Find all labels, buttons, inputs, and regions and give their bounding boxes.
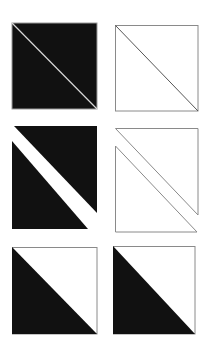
filled-square-thin-diagonal: [12, 23, 97, 109]
filled-triangles-separated: [12, 126, 97, 229]
outline-square-diagonal: [116, 26, 199, 112]
half-filled-square-left: [12, 247, 97, 334]
triangle-decomposition-diagram: [0, 0, 210, 347]
half-filled-square-right: [113, 246, 195, 334]
outline-triangles-separated: [116, 129, 199, 233]
